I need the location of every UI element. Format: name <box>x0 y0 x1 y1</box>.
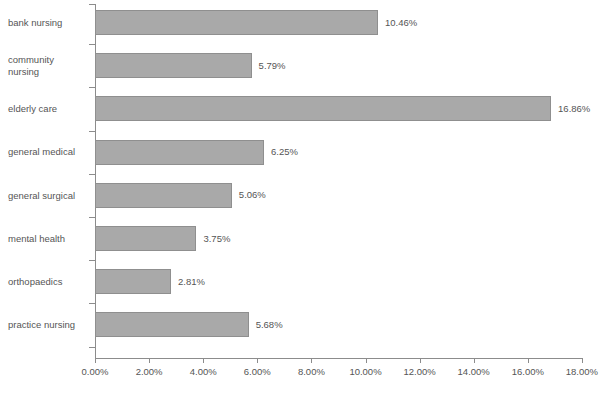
bar <box>95 10 378 35</box>
y-axis-tick <box>89 303 95 304</box>
bar-value-label: 16.86% <box>558 103 590 114</box>
y-axis-tick <box>89 87 95 88</box>
x-axis-tick <box>582 358 583 363</box>
x-axis-tick-label: 0.00% <box>82 366 109 377</box>
bar-value-label: 5.06% <box>239 189 266 200</box>
y-axis-tick <box>89 174 95 175</box>
x-axis-tick-label: 4.00% <box>190 366 217 377</box>
bar <box>95 312 249 337</box>
category-label: elderly care <box>8 103 98 115</box>
y-axis-tick <box>89 131 95 132</box>
x-axis-tick <box>149 358 150 363</box>
category-label: general surgical <box>8 190 98 202</box>
category-label: mental health <box>8 233 98 245</box>
category-label: bank nursing <box>8 17 98 29</box>
bar <box>95 53 252 78</box>
bar <box>95 226 196 251</box>
bar-value-label: 2.81% <box>178 276 205 287</box>
x-axis-tick <box>528 358 529 363</box>
y-axis-tick <box>89 347 95 348</box>
bar-value-label: 3.75% <box>203 233 230 244</box>
x-axis-tick-label: 16.00% <box>512 366 544 377</box>
y-axis-tick <box>89 260 95 261</box>
x-axis-tick-label: 6.00% <box>244 366 271 377</box>
y-axis-tick <box>89 44 95 45</box>
bar-value-label: 10.46% <box>385 17 417 28</box>
x-axis-tick <box>366 358 367 363</box>
x-axis-tick <box>257 358 258 363</box>
x-axis-tick <box>203 358 204 363</box>
x-axis-tick <box>95 358 96 363</box>
bar <box>95 183 232 208</box>
bar-value-label: 5.68% <box>256 319 283 330</box>
category-label: practice nursing <box>8 319 98 331</box>
x-axis-line <box>95 358 582 359</box>
bar <box>95 96 551 121</box>
x-axis-tick <box>474 358 475 363</box>
plot-area: 0.00%2.00%4.00%6.00%8.00%10.00%12.00%14.… <box>0 0 616 396</box>
x-axis-tick <box>311 358 312 363</box>
category-label: orthopaedics <box>8 276 98 288</box>
x-axis-tick-label: 10.00% <box>349 366 381 377</box>
x-axis-tick-label: 8.00% <box>298 366 325 377</box>
x-axis-tick-label: 2.00% <box>136 366 163 377</box>
bar-value-label: 6.25% <box>271 146 298 157</box>
x-axis-tick <box>420 358 421 363</box>
y-axis-tick <box>89 4 95 5</box>
x-axis-tick-label: 14.00% <box>458 366 490 377</box>
category-label: community nursing <box>8 54 98 77</box>
bar <box>95 269 171 294</box>
bar-chart: 0.00%2.00%4.00%6.00%8.00%10.00%12.00%14.… <box>0 0 616 396</box>
bar-value-label: 5.79% <box>259 60 286 71</box>
bar <box>95 140 264 165</box>
y-axis-tick <box>89 217 95 218</box>
x-axis-tick-label: 18.00% <box>566 366 598 377</box>
category-label: general medical <box>8 146 98 158</box>
x-axis-tick-label: 12.00% <box>403 366 435 377</box>
